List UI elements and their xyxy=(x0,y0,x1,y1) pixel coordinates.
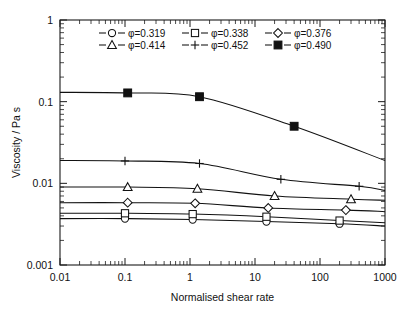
x-tick-label: 100 xyxy=(311,271,329,283)
series-2-marker xyxy=(264,204,273,213)
legend-label-2: φ=0.376 xyxy=(294,28,332,39)
legend-marker-5 xyxy=(274,41,282,49)
series-2-marker xyxy=(123,198,132,207)
series-1-marker xyxy=(336,217,343,224)
x-tick-label: 1 xyxy=(187,271,193,283)
legend-label-4: φ=0.452 xyxy=(211,40,249,51)
x-tick-label: 1000 xyxy=(373,271,397,283)
series-5-marker xyxy=(290,122,298,130)
legend-label-3: φ=0.414 xyxy=(128,40,166,51)
series-5-marker xyxy=(124,89,132,97)
chart-figure: 0.010.1110100100010.10.010.001Normalised… xyxy=(0,0,415,319)
legend-marker-0 xyxy=(108,29,115,36)
y-tick-label: 0.01 xyxy=(33,177,54,189)
series-line-5 xyxy=(60,92,385,160)
y-axis-title: Viscosity / Pa s xyxy=(10,107,22,178)
legend-label-1: φ=0.338 xyxy=(211,28,249,39)
x-axis-title: Normalised shear rate xyxy=(171,291,274,303)
series-5-marker xyxy=(196,93,204,101)
viscosity-shear-rate-plot: 0.010.1110100100010.10.010.001Normalised… xyxy=(0,0,415,319)
legend-marker-2 xyxy=(274,29,283,38)
legend-marker-1 xyxy=(191,29,198,36)
x-tick-label: 0.01 xyxy=(50,271,71,283)
x-tick-label: 10 xyxy=(249,271,261,283)
x-tick-label: 0.1 xyxy=(118,271,133,283)
plot-frame xyxy=(60,20,385,265)
y-tick-label: 0.1 xyxy=(38,96,53,108)
series-2-marker xyxy=(191,199,200,208)
legend-marker-3 xyxy=(108,41,117,49)
series-1-marker xyxy=(121,210,128,217)
y-tick-label: 1 xyxy=(47,14,53,26)
series-2-marker xyxy=(341,206,350,215)
series-line-3 xyxy=(60,187,385,200)
legend-label-5: φ=0.490 xyxy=(294,40,332,51)
legend-label-0: φ=0.319 xyxy=(128,28,166,39)
series-1-marker xyxy=(263,213,270,220)
y-tick-label: 0.001 xyxy=(27,259,53,271)
series-line-2 xyxy=(60,203,385,212)
series-1-marker xyxy=(189,211,196,218)
series-line-4 xyxy=(60,161,385,191)
